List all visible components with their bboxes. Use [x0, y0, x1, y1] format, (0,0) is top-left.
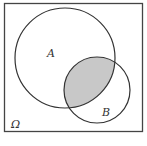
venn-svg: A B Ω: [0, 0, 147, 146]
universe-label: Ω: [10, 118, 20, 131]
venn-diagram: A B Ω: [0, 0, 147, 146]
set-b-label: B: [101, 106, 110, 119]
set-a-label: A: [46, 47, 55, 60]
